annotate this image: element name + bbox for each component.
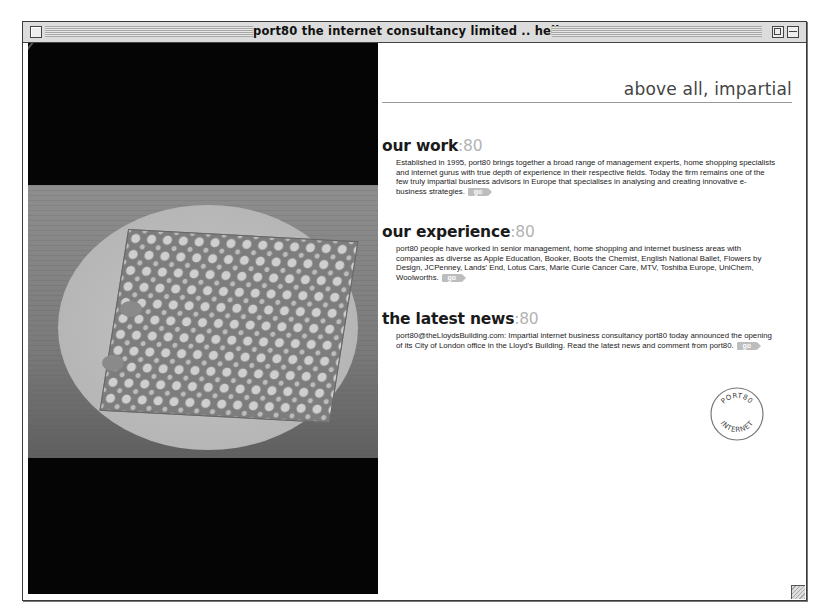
heading-text: our experience [382, 223, 510, 241]
svg-text:PORT80: PORT80 [719, 392, 754, 406]
browser-window: port80 the internet consultancy limited … [22, 21, 807, 601]
photo-hole [102, 355, 124, 371]
section-latest-news: the latest news:80 port80@theLloydsBuild… [382, 310, 777, 350]
go-button[interactable]: go [442, 274, 462, 282]
go-button[interactable]: go [737, 342, 757, 350]
section-body: port80 people have worked in senior mana… [396, 244, 777, 282]
stamp-bottom-text: INTERNET [719, 419, 756, 434]
title-stripes-right [552, 26, 762, 37]
hero-photo [28, 43, 378, 594]
stamp-top-text: PORT80 [719, 392, 754, 406]
go-button[interactable]: go [468, 188, 488, 196]
svg-text:INTERNET: INTERNET [719, 419, 756, 434]
heading-text: our work [382, 137, 458, 155]
heading-accent: :80 [510, 223, 534, 241]
section-heading: our work:80 [382, 137, 777, 155]
collapse-box-button[interactable] [787, 26, 799, 38]
text-panel: above all, impartial our work:80 Establi… [379, 43, 806, 600]
section-our-experience: our experience:80 port80 people have wor… [382, 223, 777, 282]
port80-stamp-logo: PORT80 INTERNET [709, 386, 765, 442]
page-content: above all, impartial our work:80 Establi… [23, 43, 806, 600]
heading-accent: :80 [458, 137, 482, 155]
heading-text: the latest news [382, 310, 514, 328]
heading-accent: :80 [514, 310, 538, 328]
zoom-box-button[interactable] [772, 26, 784, 38]
tagline-divider [382, 102, 792, 103]
body-text: Established in 1995, port80 brings toget… [396, 158, 775, 196]
window-title: port80 the internet consultancy limited … [253, 24, 552, 38]
section-body: port80@theLloydsBuilding.com: Impartial … [396, 331, 777, 350]
photo-disc [58, 205, 358, 450]
close-box-button[interactable] [30, 26, 42, 38]
body-text: port80@theLloydsBuilding.com: Impartial … [396, 331, 772, 350]
resize-grip[interactable] [791, 585, 805, 599]
tagline: above all, impartial [624, 79, 792, 99]
section-heading: our experience:80 [382, 223, 777, 241]
photo-perforated-grid [99, 229, 358, 423]
section-heading: the latest news:80 [382, 310, 777, 328]
photo-wood-band [28, 185, 378, 458]
section-body: Established in 1995, port80 brings toget… [396, 158, 777, 196]
photo-hole [120, 301, 142, 317]
section-our-work: our work:80 Established in 1995, port80 … [382, 137, 777, 196]
title-bar[interactable]: port80 the internet consultancy limited … [23, 22, 806, 43]
title-stripes-left [45, 26, 253, 37]
